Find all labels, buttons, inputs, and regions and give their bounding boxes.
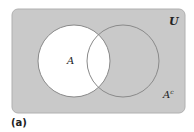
figure-caption: (a) — [11, 118, 27, 128]
set-a-label: A — [67, 56, 74, 66]
complement-label-superscript: c — [170, 88, 173, 95]
complement-label: Ac — [163, 89, 174, 100]
universe-label: U — [169, 16, 179, 27]
venn-diagram — [0, 0, 194, 132]
